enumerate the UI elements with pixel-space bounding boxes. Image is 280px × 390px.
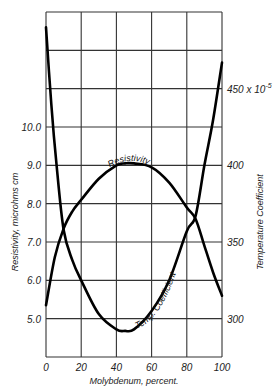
right-tick-label: 450 x 10-5 bbox=[227, 82, 272, 95]
right-tick-label: 400 bbox=[227, 160, 244, 171]
left-tick-label: 10.0 bbox=[22, 122, 42, 133]
x-tick-label: 20 bbox=[75, 362, 88, 373]
curves bbox=[46, 27, 222, 331]
right-tick-label: 350 bbox=[227, 237, 244, 248]
right-axis-title: Temperature Coefficient bbox=[255, 174, 265, 270]
left-tick-label: 7.0 bbox=[27, 237, 41, 248]
left-tick-label: 8.0 bbox=[27, 199, 41, 210]
grid bbox=[46, 12, 222, 357]
x-tick-label: 80 bbox=[181, 362, 193, 373]
resistivity-temp-coefficient-chart: 10.09.08.07.06.05.0 450 x 10-5400350300 … bbox=[0, 0, 280, 390]
resistivity-curve bbox=[46, 163, 222, 305]
left-axis-ticks: 10.09.08.07.06.05.0 bbox=[22, 122, 42, 325]
x-tick-label: 0 bbox=[43, 362, 49, 373]
temp-coefficient-curve-label: Temp. Coefficient bbox=[133, 270, 177, 330]
left-axis-title: Resistivity, microhms cm bbox=[10, 172, 20, 271]
x-axis-ticks: 020406080100 bbox=[43, 362, 231, 373]
x-tick-label: 40 bbox=[111, 362, 123, 373]
right-tick-label: 300 bbox=[227, 314, 244, 325]
left-tick-label: 9.0 bbox=[27, 160, 41, 171]
temp-coefficient-curve bbox=[46, 27, 222, 331]
left-tick-label: 5.0 bbox=[27, 314, 41, 325]
x-tick-label: 100 bbox=[214, 362, 231, 373]
resistivity-curve-label: Resistivity bbox=[106, 153, 152, 170]
x-axis-title: Molybdenum, percent. bbox=[89, 376, 178, 386]
right-axis-ticks: 450 x 10-5400350300 bbox=[227, 82, 272, 325]
left-tick-label: 6.0 bbox=[27, 275, 41, 286]
x-tick-label: 60 bbox=[146, 362, 158, 373]
